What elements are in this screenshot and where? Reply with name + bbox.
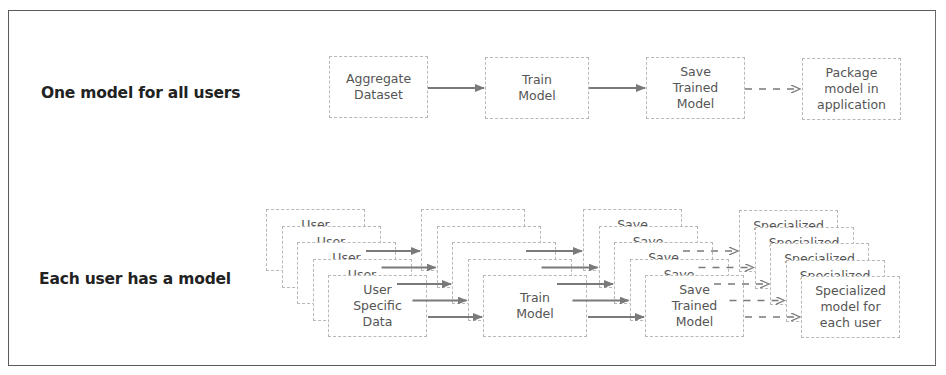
step-train-model: Train Model (485, 57, 589, 119)
stack-user-data-layer-0: User Specific Data (328, 275, 427, 337)
step-label: Save Trained Model (673, 64, 719, 112)
step-label: Train Model (516, 290, 554, 322)
stack-train-model-layer-0: Train Model (483, 275, 587, 337)
step-label: Train Model (518, 72, 556, 104)
step-label: Package model in application (817, 65, 886, 113)
row-label-per-user-model: Each user has a model (39, 270, 231, 288)
step-aggregate-dataset: Aggregate Dataset (329, 56, 428, 118)
row-label-single-model: One model for all users (41, 84, 240, 102)
step-label: Specialized model for each user (815, 283, 886, 331)
step-label: Save Trained Model (672, 282, 718, 330)
step-label: User Specific Data (353, 282, 402, 330)
stack-specialized-model-layer-0: Specialized model for each user (801, 276, 900, 338)
stack-save-trained-model-layer-0: Save Trained Model (645, 275, 744, 337)
step-save-trained-model: Save Trained Model (646, 57, 745, 119)
step-package-model: Package model in application (802, 58, 901, 120)
step-label: Aggregate Dataset (346, 71, 411, 103)
